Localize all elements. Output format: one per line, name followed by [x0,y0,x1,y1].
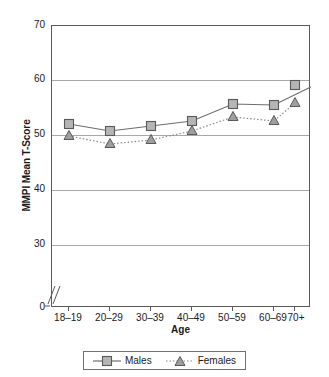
y-tick-label: 70 [23,20,45,30]
axis-break-icon [44,282,62,308]
males-marker [229,100,238,109]
chart-legend: Males Females [83,351,246,370]
series-layer [52,26,311,308]
males-marker [106,127,115,136]
x-tick-label: 20–29 [86,312,132,323]
series-males [65,81,312,136]
x-tick-label: 70+ [273,312,319,323]
x-tick-mark [273,307,274,311]
x-axis-title: Age [51,324,310,335]
x-tick-label: 50–59 [209,312,255,323]
x-tick-mark [191,307,192,311]
x-tick-mark [150,307,151,311]
males-legend-swatch-icon [93,355,121,367]
females-marker [105,139,115,148]
females-marker [187,126,197,135]
x-tick-label: 30–39 [127,312,173,323]
y-axis-tick-labels: 70 60 50 40 30 0 [22,0,45,377]
legend-label-males: Males [125,355,152,366]
legend-label-females: Females [198,355,236,366]
plot-area [51,25,310,307]
legend-item-males: Males [93,355,152,367]
chart-figure: MMPI Mean T-Score 70 60 50 40 30 0 [0,0,329,377]
males-marker [188,117,197,126]
females-marker [146,135,156,144]
x-tick-label: 18–19 [45,312,91,323]
females-marker [228,112,238,121]
females-legend-swatch-icon [166,355,194,367]
x-tick-mark [232,307,233,311]
males-marker [270,101,279,110]
males-marker [291,81,300,90]
y-tick-label: 50 [23,129,45,139]
y-tick-label: 30 [23,239,45,249]
females-marker [64,131,74,140]
males-marker [65,120,74,129]
y-tick-label: 60 [23,74,45,84]
x-tick-mark [109,307,110,311]
y-tick-label: 40 [23,184,45,194]
females-marker [269,116,279,125]
x-tick-label: 40–49 [168,312,214,323]
females-line [69,103,295,144]
x-tick-mark [294,307,295,311]
males-marker [147,122,156,131]
y-origin-label: 0 [23,302,45,312]
x-tick-mark [68,307,69,311]
females-marker [290,98,300,107]
legend-item-females: Females [166,355,236,367]
